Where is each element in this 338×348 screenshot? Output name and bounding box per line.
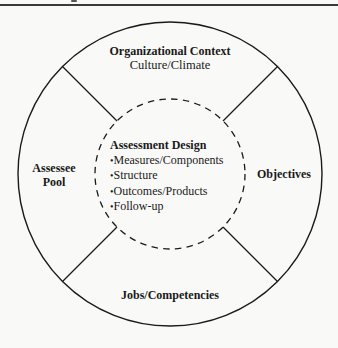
segment-assessee-pool: Assessee Pool [32,161,75,189]
segment-jobs-competencies: Jobs/Competencies [121,288,219,302]
segment-title: Jobs/Competencies [121,288,219,302]
divider-lower-right [223,227,278,282]
center-item: Follow-up [110,199,224,215]
divider-lower-left [63,227,118,282]
divider-upper-right [223,67,278,122]
segment-title: Objectives [257,167,311,181]
center-item-label: Follow-up [114,199,164,213]
segment-title-line2: Pool [32,175,75,189]
center-item-label: Outcomes/Products [114,184,208,198]
center-item: Measures/Components [110,153,224,169]
assessment-diagram: Organizational Context Culture/Climate A… [0,0,338,348]
segment-objectives: Objectives [257,167,311,181]
center-item: Structure [110,168,224,184]
center-title: Assessment Design [110,138,224,153]
center-item-label: Measures/Components [114,153,224,167]
divider-upper-left [63,67,118,122]
segment-organizational-context: Organizational Context Culture/Climate [110,44,231,72]
segment-title: Organizational Context [110,44,231,58]
center-item-label: Structure [114,168,158,182]
center-assessment-design: Assessment Design Measures/Components St… [110,138,224,215]
center-item: Outcomes/Products [110,184,224,200]
segment-subtitle: Culture/Climate [110,58,231,72]
segment-title-line1: Assessee [32,161,75,175]
